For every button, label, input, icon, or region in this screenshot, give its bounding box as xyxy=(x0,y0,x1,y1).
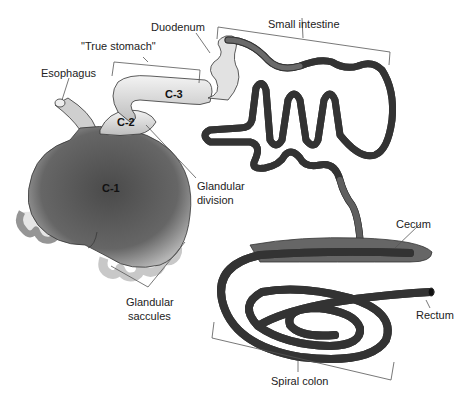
label-small-intestine: Small intestine xyxy=(268,18,340,31)
label-glandular-division-line1: Glandular xyxy=(197,180,245,193)
compartment-c1 xyxy=(28,127,191,268)
label-duodenum: Duodenum xyxy=(151,21,205,34)
label-glandular-saccules-line1: Glandular xyxy=(126,296,174,309)
label-glandular-saccules-line2: saccules xyxy=(128,310,171,323)
label-true-stomach: "True stomach" xyxy=(81,40,156,53)
spiral-colon xyxy=(221,252,434,359)
label-rectum: Rectum xyxy=(416,309,454,322)
label-esophagus: Esophagus xyxy=(41,67,96,80)
duodenum xyxy=(208,36,239,100)
label-cecum: Cecum xyxy=(396,218,431,231)
label-c2: C-2 xyxy=(117,116,135,128)
label-spiral-colon: Spiral colon xyxy=(271,375,328,388)
label-c3: C-3 xyxy=(165,88,183,100)
label-glandular-division-line2: division xyxy=(197,194,234,207)
label-c1: C-1 xyxy=(102,182,120,194)
esophagus xyxy=(55,98,96,130)
digestive-tract-diagram xyxy=(0,0,470,403)
